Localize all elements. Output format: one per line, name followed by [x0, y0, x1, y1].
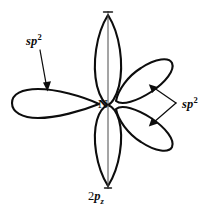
leader-right-lower [149, 103, 176, 127]
label-sp2-right-base: sp [182, 97, 194, 111]
sp2-lobe-upper-right [116, 59, 173, 103]
leader-right-upper [149, 84, 176, 103]
sp2-lobe-left [12, 89, 99, 118]
p-lobe-top [95, 11, 121, 105]
label-sp2-right-exponent: 2 [194, 95, 198, 105]
label-sp2-left-exponent: 2 [38, 32, 42, 42]
leader-left [40, 50, 51, 92]
p-lobe-bottom [95, 105, 121, 189]
label-2pz-subscript: z [101, 196, 104, 206]
label-2pz: 2pz [88, 190, 104, 203]
nitrogen-center-label: N [98, 97, 108, 111]
label-sp2-left-base: sp [26, 34, 38, 48]
orbital-diagram: sp2 sp2 2pz N [0, 0, 218, 211]
label-sp2-left: sp2 [26, 35, 42, 48]
label-sp2-right: sp2 [182, 98, 198, 111]
